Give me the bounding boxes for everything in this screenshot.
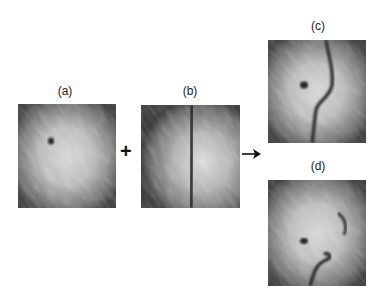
plus-icon: + [120,140,132,163]
panel-d-image [268,180,366,286]
arrow-right-icon [241,143,263,163]
panel-b-label: (b) [160,84,220,98]
panel-d-label: (d) [288,159,348,173]
panel-c-image [268,40,366,143]
panel-a-label: (a) [35,84,95,98]
panel-c-label: (c) [288,19,348,33]
panel-b-image [141,105,240,208]
panel-a-image [18,104,116,208]
